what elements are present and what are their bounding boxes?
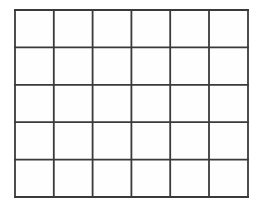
grid-cell-r5-c3[interactable] xyxy=(93,160,132,197)
grid-cell-r2-c5[interactable] xyxy=(170,47,209,84)
diagram-canvas xyxy=(0,0,260,206)
grid-cell-r4-c3[interactable] xyxy=(93,122,132,159)
grid-cell-r4-c6[interactable] xyxy=(209,122,248,159)
grid-cell-r2-c3[interactable] xyxy=(93,47,132,84)
grid-cell-hitbox[interactable] xyxy=(209,47,248,84)
grid-cell-hitbox[interactable] xyxy=(54,85,93,122)
grid-cell-r3-c1[interactable] xyxy=(15,85,54,122)
grid-cell-hitbox[interactable] xyxy=(131,10,170,47)
grid-cell-r3-c3[interactable] xyxy=(93,85,132,122)
grid-cell-r5-c6[interactable] xyxy=(209,160,248,197)
grid-cell-r3-c2[interactable] xyxy=(54,85,93,122)
grid-cell-r2-c1[interactable] xyxy=(15,47,54,84)
grid-cell-r5-c5[interactable] xyxy=(170,160,209,197)
grid-cell-hitbox[interactable] xyxy=(131,47,170,84)
grid-cell-hitbox[interactable] xyxy=(209,85,248,122)
grid-cell-hitbox[interactable] xyxy=(93,122,132,159)
grid-cell-hitbox[interactable] xyxy=(15,85,54,122)
grid-cell-hitbox[interactable] xyxy=(170,160,209,197)
grid-cell-r2-c2[interactable] xyxy=(54,47,93,84)
grid-cell-hitbox[interactable] xyxy=(131,122,170,159)
grid-cell-r5-c2[interactable] xyxy=(54,160,93,197)
grid-cell-r3-c6[interactable] xyxy=(209,85,248,122)
grid-cell-hitbox[interactable] xyxy=(209,122,248,159)
grid-cell-r1-c5[interactable] xyxy=(170,10,209,47)
grid-figure xyxy=(0,0,260,206)
grid-cell-hitbox[interactable] xyxy=(209,10,248,47)
grid-cell-r1-c4[interactable] xyxy=(131,10,170,47)
grid-cell-hitbox[interactable] xyxy=(54,47,93,84)
grid-cell-hitbox[interactable] xyxy=(93,47,132,84)
grid-cell-r3-c4[interactable] xyxy=(131,85,170,122)
grid-cell-hitbox[interactable] xyxy=(15,160,54,197)
grid-cell-r1-c1[interactable] xyxy=(15,10,54,47)
grid-cell-hitbox[interactable] xyxy=(93,10,132,47)
grid-cell-hitbox[interactable] xyxy=(93,85,132,122)
grid-cell-hitbox[interactable] xyxy=(170,10,209,47)
grid-cell-r3-c5[interactable] xyxy=(170,85,209,122)
grid-cell-hitbox[interactable] xyxy=(131,160,170,197)
grid-cell-r2-c4[interactable] xyxy=(131,47,170,84)
grid-cell-hitbox[interactable] xyxy=(131,85,170,122)
grid-cell-r4-c4[interactable] xyxy=(131,122,170,159)
grid-cell-hitbox[interactable] xyxy=(93,160,132,197)
grid-cell-r4-c5[interactable] xyxy=(170,122,209,159)
grid-cell-r4-c2[interactable] xyxy=(54,122,93,159)
grid-cell-hitbox[interactable] xyxy=(15,47,54,84)
grid-cells[interactable] xyxy=(15,10,248,197)
grid-cell-r1-c6[interactable] xyxy=(209,10,248,47)
grid-cell-r4-c1[interactable] xyxy=(15,122,54,159)
grid-cell-hitbox[interactable] xyxy=(54,160,93,197)
grid-cell-hitbox[interactable] xyxy=(170,122,209,159)
grid-cell-r5-c4[interactable] xyxy=(131,160,170,197)
grid-cell-hitbox[interactable] xyxy=(209,160,248,197)
grid-cell-hitbox[interactable] xyxy=(170,85,209,122)
grid-cell-hitbox[interactable] xyxy=(15,122,54,159)
grid-cell-hitbox[interactable] xyxy=(54,10,93,47)
grid-cell-r1-c3[interactable] xyxy=(93,10,132,47)
grid-cell-hitbox[interactable] xyxy=(15,10,54,47)
grid-cell-r1-c2[interactable] xyxy=(54,10,93,47)
grid-cell-r5-c1[interactable] xyxy=(15,160,54,197)
grid-cell-hitbox[interactable] xyxy=(170,47,209,84)
grid-cell-r2-c6[interactable] xyxy=(209,47,248,84)
grid-cell-hitbox[interactable] xyxy=(54,122,93,159)
